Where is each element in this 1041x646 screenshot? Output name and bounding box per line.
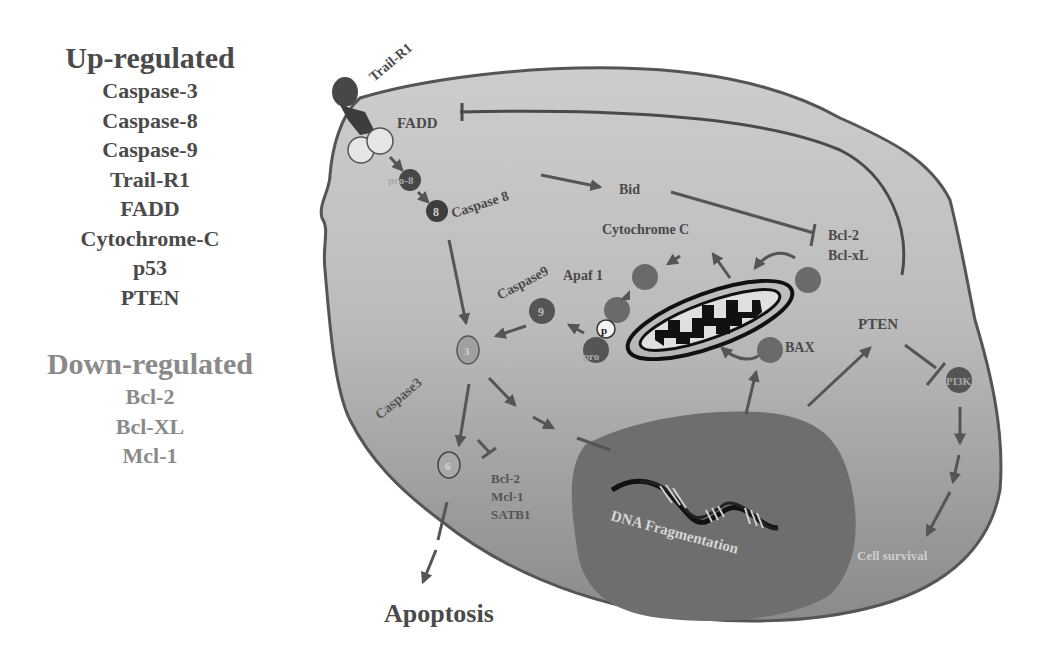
caspase3-node-label: 3 [464, 345, 470, 357]
pro-caspase8-label: pro-8 [388, 174, 414, 186]
cell-survival-label: Cell survival [857, 548, 928, 563]
pi3k-label: PI3K [946, 375, 972, 387]
apaf1-label: Apaf 1 [563, 268, 603, 283]
bcl2-node [795, 267, 821, 293]
caspase8-node-label: 8 [433, 205, 439, 219]
mcl1-inhibited-label: Mcl-1 [491, 489, 523, 504]
caspase6-node-label: 6 [445, 460, 451, 472]
bid-label: Bid [619, 182, 640, 197]
fadd-label: FADD [397, 115, 438, 131]
bclxl-label: Bcl-xL [828, 248, 868, 263]
caspase9-node-label: 9 [538, 305, 544, 319]
apaf1-node [604, 297, 630, 323]
apoptosis-pathway-diagram: Trail-R1 FADD pro-8 8 Caspase 8 Bid Bcl-… [0, 0, 1041, 646]
pten-label: PTEN [858, 316, 898, 332]
phosphate-label: p [601, 324, 607, 336]
bcl2-inhibited-label: Bcl-2 [491, 471, 520, 486]
bax-label: BAX [785, 340, 815, 355]
bcl2-label: Bcl-2 [828, 228, 859, 243]
pro-caspase9-label: pro [583, 350, 600, 362]
cytochrome-c-label: Cytochrome C [602, 222, 689, 237]
trail-r1-label: Trail-R1 [366, 40, 415, 84]
satb1-inhibited-label: SATB1 [491, 507, 531, 522]
bax-node [757, 337, 783, 363]
apoptosis-label: Apoptosis [384, 599, 494, 628]
cytochrome-c-node [632, 264, 658, 290]
